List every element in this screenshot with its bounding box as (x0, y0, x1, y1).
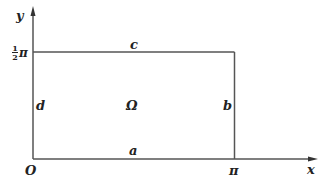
x-axis-arrow-icon (308, 157, 318, 162)
bottom-edge-label: a (129, 144, 137, 157)
fraction: 1 2 (12, 44, 18, 61)
right-edge-label: b (223, 99, 232, 112)
y-axis-label: y (16, 9, 24, 22)
y-axis-arrow-icon (31, 6, 36, 16)
fraction-numerator: 1 (12, 44, 18, 52)
y-tick-half-pi: 1 2 π (12, 44, 28, 61)
x-axis-label: x (307, 163, 315, 176)
region-label-omega: Ω (126, 99, 138, 112)
y-tick-pi: π (19, 46, 28, 60)
diagram-lines (0, 0, 325, 181)
origin-label: O (25, 164, 36, 177)
domain-diagram: y 1 2 π c d Ω b a O π x (0, 0, 325, 181)
top-edge-label: c (130, 38, 138, 51)
left-edge-label: d (36, 99, 45, 112)
x-tick-pi: π (229, 164, 239, 177)
fraction-denominator: 2 (12, 53, 18, 61)
